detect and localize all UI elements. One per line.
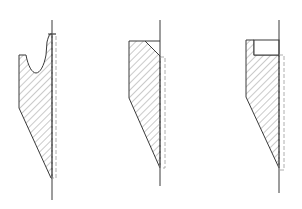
profile-2-section [129,41,160,168]
profile-3-step-notch [254,40,279,55]
profile-2 [129,20,165,186]
profile-1 [19,20,56,200]
profile-2-dashed-outline [160,57,165,168]
profile-3-section [246,40,279,168]
diagram-canvas [0,0,302,209]
profile-3-dashed-outline [279,55,284,170]
profile-1-dashed-outline [52,34,56,178]
profile-3 [246,20,284,193]
profile-1-section [19,34,52,178]
